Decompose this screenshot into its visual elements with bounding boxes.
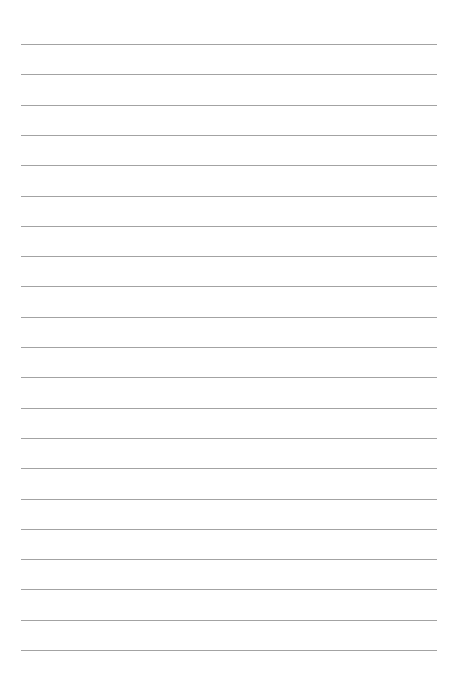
lined-paper-page xyxy=(0,0,455,674)
ruled-line xyxy=(21,347,437,348)
ruled-line xyxy=(21,105,437,106)
ruled-line xyxy=(21,286,437,287)
ruled-line xyxy=(21,589,437,590)
ruled-line xyxy=(21,438,437,439)
ruled-line xyxy=(21,529,437,530)
ruled-line xyxy=(21,165,437,166)
ruled-line xyxy=(21,256,437,257)
ruled-line xyxy=(21,408,437,409)
ruled-line xyxy=(21,559,437,560)
ruled-line xyxy=(21,44,437,45)
ruled-line xyxy=(21,317,437,318)
ruled-line xyxy=(21,620,437,621)
ruled-line xyxy=(21,499,437,500)
ruled-line xyxy=(21,650,437,651)
ruled-line xyxy=(21,135,437,136)
ruled-line xyxy=(21,226,437,227)
ruled-line xyxy=(21,74,437,75)
ruled-line xyxy=(21,468,437,469)
ruled-line xyxy=(21,196,437,197)
ruled-line xyxy=(21,377,437,378)
